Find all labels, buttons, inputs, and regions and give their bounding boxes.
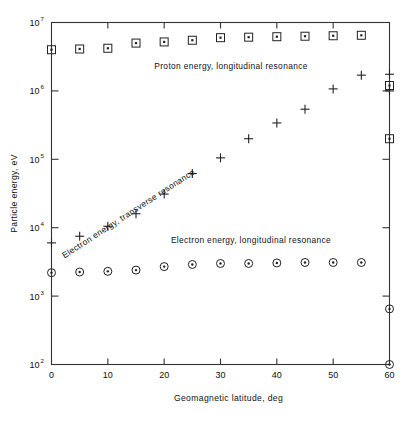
y-tick-label: 106 — [29, 83, 44, 96]
series-0 — [48, 31, 394, 142]
data-point — [76, 45, 84, 53]
data-point — [245, 259, 253, 267]
data-point — [329, 32, 337, 40]
data-point — [301, 32, 309, 40]
y-tick-exponent: 4 — [41, 220, 45, 227]
x-tick-label: 20 — [159, 370, 169, 380]
y-tick-mantissa: 10 — [29, 360, 39, 370]
data-point — [160, 263, 168, 271]
scatter-plot: 0102030405060 102103104105106107 Proton … — [0, 0, 417, 424]
data-point — [188, 36, 196, 44]
data-point — [104, 44, 112, 52]
circle-center-dot — [388, 363, 390, 365]
series-2 — [48, 258, 394, 368]
square-center-dot — [276, 36, 278, 38]
square-center-dot — [388, 138, 390, 140]
data-point — [385, 86, 394, 95]
y-tick-exponent: 6 — [41, 83, 45, 90]
x-axis-ticks — [108, 23, 333, 365]
data-points-layer — [47, 31, 394, 368]
annotations-layer: Proton energy, longitudinal resonanceEle… — [60, 61, 331, 260]
y-tick-label: 103 — [29, 289, 44, 302]
y-tick-label: 105 — [29, 152, 44, 165]
data-point — [329, 84, 338, 93]
y-tick-mantissa: 10 — [29, 86, 39, 96]
proton-longitudinal-label: Proton energy, longitudinal resonance — [154, 61, 307, 71]
data-point — [357, 31, 365, 39]
plot-frame-rect — [52, 23, 390, 365]
data-point — [357, 71, 366, 80]
x-axis-tick-labels: 0102030405060 — [49, 370, 395, 380]
plot-frame — [52, 23, 390, 365]
y-tick-label: 107 — [29, 15, 44, 28]
data-point — [160, 38, 168, 46]
square-center-dot — [248, 36, 250, 38]
figure-container: 0102030405060 102103104105106107 Proton … — [0, 0, 417, 424]
data-point — [244, 134, 253, 143]
x-tick-label: 60 — [384, 370, 394, 380]
data-point — [357, 258, 365, 266]
data-point — [273, 259, 281, 267]
circle-center-dot — [388, 308, 390, 310]
circle-center-dot — [276, 262, 278, 264]
circle-center-dot — [107, 270, 109, 272]
x-axis-title: Geomagnetic latitude, deg — [174, 393, 283, 403]
y-tick-mantissa: 10 — [29, 223, 39, 233]
circle-center-dot — [219, 262, 221, 264]
square-center-dot — [360, 34, 362, 36]
data-point — [104, 267, 112, 275]
y-tick-label: 102 — [29, 357, 44, 370]
data-point — [273, 33, 281, 41]
circle-center-dot — [191, 263, 193, 265]
y-tick-exponent: 7 — [41, 15, 45, 22]
y-axis-title: Particle energy, eV — [9, 154, 19, 233]
square-center-dot — [219, 37, 221, 39]
square-center-dot — [191, 39, 193, 41]
x-tick-label: 50 — [328, 370, 338, 380]
series-1 — [47, 70, 394, 248]
x-tick-label: 0 — [49, 370, 54, 380]
square-center-dot — [163, 41, 165, 43]
square-center-dot — [135, 42, 137, 44]
data-point — [245, 33, 253, 41]
y-tick-exponent: 5 — [41, 152, 45, 159]
data-point — [301, 105, 310, 114]
x-tick-label: 40 — [272, 370, 282, 380]
circle-center-dot — [332, 261, 334, 263]
data-point — [188, 260, 196, 268]
circle-center-dot — [247, 262, 249, 264]
circle-center-dot — [50, 271, 52, 273]
data-point — [217, 34, 225, 42]
circle-center-dot — [135, 269, 137, 271]
y-axis-tick-labels: 102103104105106107 — [29, 15, 44, 370]
square-center-dot — [79, 48, 81, 50]
y-tick-label: 104 — [29, 220, 44, 233]
data-point — [47, 238, 56, 247]
circle-center-dot — [360, 261, 362, 263]
y-tick-mantissa: 10 — [29, 155, 39, 165]
x-tick-label: 30 — [215, 370, 225, 380]
data-point — [132, 266, 140, 274]
data-point — [329, 258, 337, 266]
y-tick-mantissa: 10 — [29, 18, 39, 28]
y-tick-exponent: 2 — [41, 357, 45, 364]
y-axis-ticks — [52, 91, 390, 296]
square-center-dot — [388, 84, 390, 86]
data-point — [217, 259, 225, 267]
data-point — [76, 268, 84, 276]
square-center-dot — [332, 35, 334, 37]
x-tick-label: 10 — [103, 370, 113, 380]
y-tick-exponent: 3 — [41, 289, 45, 296]
square-center-dot — [304, 35, 306, 37]
y-tick-mantissa: 10 — [29, 292, 39, 302]
square-center-dot — [107, 47, 109, 49]
electron-longitudinal-label: Electron energy, longitudinal resonance — [171, 235, 331, 245]
data-point — [132, 39, 140, 47]
circle-center-dot — [78, 271, 80, 273]
data-point — [216, 153, 225, 162]
data-point — [385, 70, 394, 79]
data-point — [272, 118, 281, 127]
circle-center-dot — [304, 261, 306, 263]
circle-center-dot — [163, 265, 165, 267]
electron-transverse-label: Electron energy, transverse resonance — [60, 167, 196, 260]
